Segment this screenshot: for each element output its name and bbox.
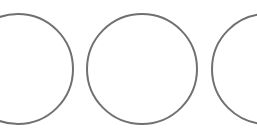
circle-item-2[interactable] [86,13,198,125]
circle-item-3[interactable] [211,13,257,125]
circle-item-1[interactable] [0,13,74,125]
circle-strip [0,0,257,130]
